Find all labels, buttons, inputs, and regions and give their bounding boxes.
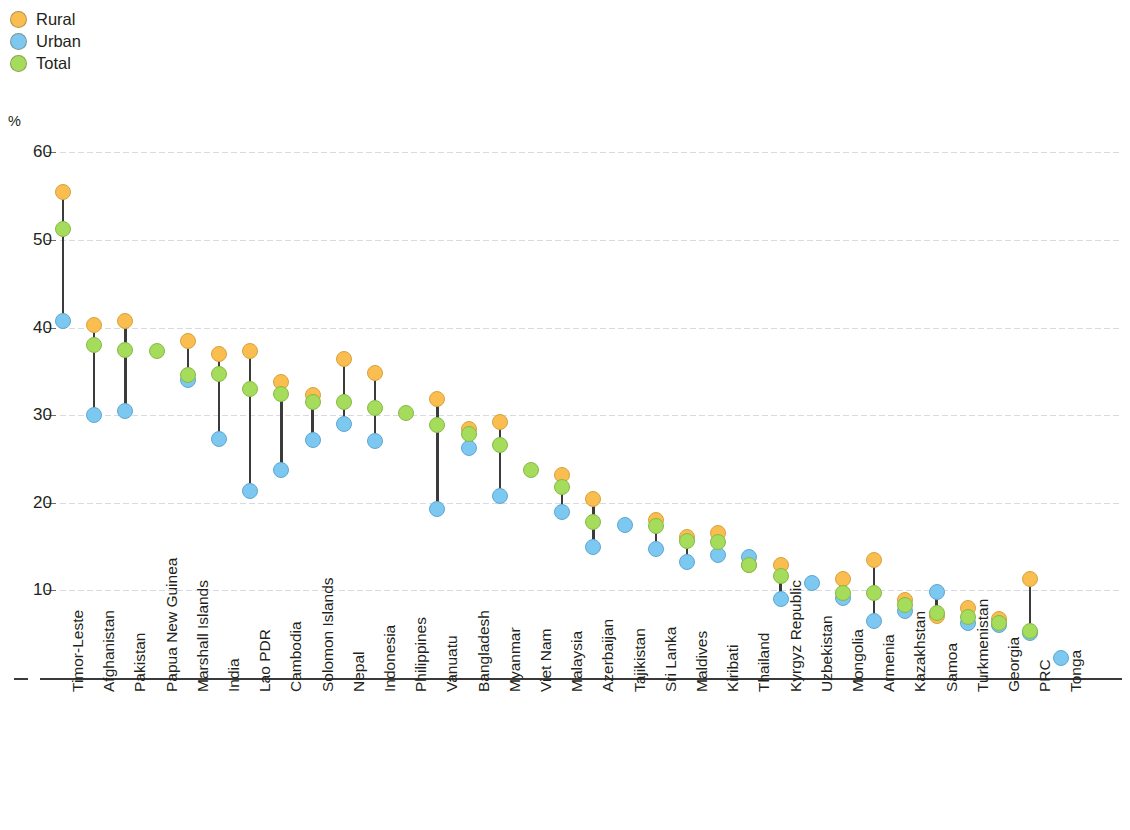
data-group-marshall-islands [188, 0, 189, 690]
data-group-timor-leste [63, 0, 64, 690]
data-group-viet-nam [531, 0, 532, 690]
x-axis-tick-label: Indonesia [381, 625, 399, 692]
data-point-rural [86, 317, 102, 333]
data-point-total [117, 342, 133, 358]
x-axis-tick-label: Kiribati [724, 645, 742, 692]
data-group-papua-new-guinea [157, 0, 158, 690]
data-point-rural [180, 333, 196, 349]
data-group-lao-pdr [250, 0, 251, 690]
data-point-rural [429, 391, 445, 407]
data-point-total [305, 394, 321, 410]
data-point-urban [804, 575, 820, 591]
data-point-urban [866, 613, 882, 629]
data-point-urban [617, 517, 633, 533]
data-point-urban [679, 554, 695, 570]
data-point-total [492, 437, 508, 453]
data-point-rural [585, 491, 601, 507]
data-point-urban [929, 584, 945, 600]
data-point-total [773, 568, 789, 584]
data-point-rural [55, 184, 71, 200]
data-point-total [367, 400, 383, 416]
data-point-rural [492, 414, 508, 430]
data-point-rural [866, 552, 882, 568]
x-axis-tick-label: Viet Nam [537, 629, 555, 692]
x-axis-tick-label: Malaysia [568, 631, 586, 692]
connector-line [343, 359, 345, 424]
x-axis-tick-label: Bangladesh [475, 610, 493, 692]
data-point-urban [305, 432, 321, 448]
x-axis-tick-label: Turkmenistan [974, 599, 992, 692]
data-group-tonga [1061, 0, 1062, 690]
data-point-urban [554, 504, 570, 520]
data-group-cambodia [281, 0, 282, 690]
data-group-nepal [344, 0, 345, 690]
chart-container: RuralUrbanTotal % 605040302010Timor-Lest… [0, 0, 1130, 830]
x-axis-tick-label: Mongolia [849, 629, 867, 692]
data-point-total [866, 585, 882, 601]
data-group-thailand [749, 0, 750, 690]
data-group-samoa [937, 0, 938, 690]
data-group-pakistan [125, 0, 126, 690]
connector-line [62, 192, 64, 321]
data-group-philippines [406, 0, 407, 690]
data-point-total [461, 426, 477, 442]
data-point-rural [1022, 571, 1038, 587]
data-group-georgia [999, 0, 1000, 690]
data-point-total [211, 366, 227, 382]
data-group-kyrgyz-republic [781, 0, 782, 690]
connector-line [436, 399, 438, 509]
x-axis-tick-label: Uzbekistan [818, 615, 836, 692]
y-axis-tick-label: 60 [0, 142, 52, 162]
y-axis-tick-label: 40 [0, 318, 52, 338]
data-group-malaysia [562, 0, 563, 690]
data-point-total [835, 585, 851, 601]
data-point-urban [773, 591, 789, 607]
data-point-urban [86, 407, 102, 423]
x-axis-tick-label: Tonga [1067, 650, 1085, 692]
plot-area: 605040302010Timor-LesteAfghanistanPakist… [0, 0, 1130, 830]
data-point-total [180, 367, 196, 383]
connector-line [249, 351, 251, 490]
data-point-rural [336, 351, 352, 367]
data-point-urban [242, 483, 258, 499]
x-axis-tick-label: Timor-Leste [69, 610, 87, 692]
data-point-rural [242, 343, 258, 359]
data-point-urban [429, 501, 445, 517]
data-point-total [741, 557, 757, 573]
data-group-india [219, 0, 220, 690]
data-point-total [991, 615, 1007, 631]
x-axis-tick-label: Marshall Islands [194, 580, 212, 692]
data-point-urban [211, 431, 227, 447]
data-point-urban [367, 433, 383, 449]
x-axis-tick-label: Myanmar [506, 627, 524, 692]
data-point-total [1022, 623, 1038, 639]
data-point-urban [336, 416, 352, 432]
x-axis-tick-label: PRC [1036, 659, 1054, 692]
data-group-solomon-islands [313, 0, 314, 690]
x-axis-tick-label: Pakistan [131, 633, 149, 692]
data-point-urban [585, 539, 601, 555]
x-axis-tick-label: Cambodia [287, 621, 305, 692]
y-axis-tick-label: 20 [0, 493, 52, 513]
connector-line [124, 321, 126, 410]
x-axis-tick-label: Maldives [693, 631, 711, 692]
y-axis-tick-label: 10 [0, 580, 52, 600]
data-group-azerbaijan [593, 0, 594, 690]
data-group-maldives [687, 0, 688, 690]
data-point-total [149, 343, 165, 359]
data-point-total [585, 514, 601, 530]
data-group-armenia [874, 0, 875, 690]
data-point-total [273, 386, 289, 402]
data-point-urban [461, 440, 477, 456]
data-point-rural [367, 365, 383, 381]
x-axis-tick-label: Georgia [1005, 637, 1023, 692]
x-axis-tick-label: Nepal [350, 652, 368, 693]
data-group-turkmenistan [968, 0, 969, 690]
x-axis-tick-label: Philippines [412, 617, 430, 692]
data-point-total [55, 221, 71, 237]
data-point-total [648, 518, 664, 534]
data-point-urban [55, 313, 71, 329]
x-axis-tick-label: Vanuatu [443, 635, 461, 692]
x-axis-tick-label: Afghanistan [100, 610, 118, 692]
data-group-indonesia [375, 0, 376, 690]
